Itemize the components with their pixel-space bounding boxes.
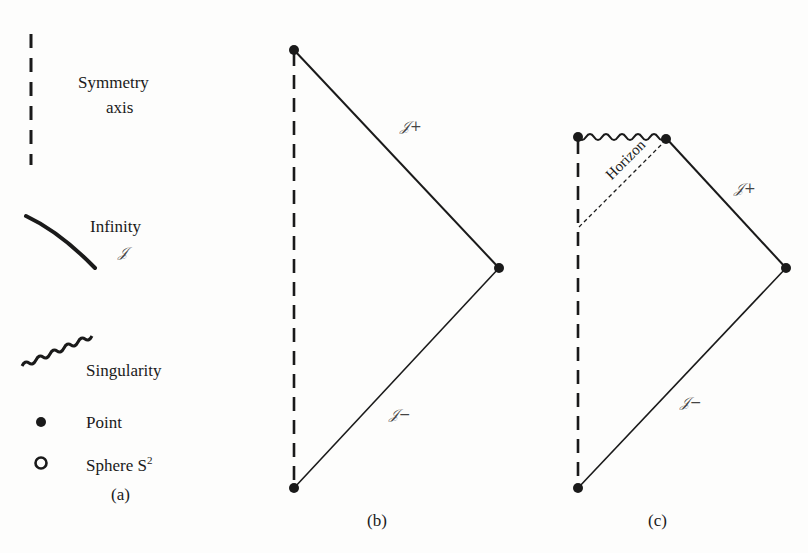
legend-infinity-curve-icon (26, 216, 95, 268)
legend-point-label: Point (86, 414, 122, 431)
legend-sphere-text: Sphere S (86, 456, 147, 475)
legend-symmetry-label: Symmetry (78, 74, 149, 91)
c-scri-plus-line (666, 138, 786, 268)
c-scri-minus-label: 𝒥− (680, 394, 702, 411)
c-right-point-icon (781, 263, 791, 273)
legend-sphere-circle-icon (36, 458, 47, 469)
b-right-point-icon (494, 263, 504, 273)
c-scri-plus-label: 𝒥+ (734, 180, 756, 197)
b-bottom-point-icon (289, 483, 299, 493)
legend-point-dot-icon (36, 417, 46, 427)
legend-singularity-wavy-icon (22, 336, 92, 366)
c-scri-minus-line (578, 268, 786, 488)
c-bottom-point-icon (573, 483, 583, 493)
c-top-right-point-icon (661, 134, 671, 144)
legend-sphere-label: Sphere S2 (86, 455, 152, 474)
c-top-left-point-icon (573, 132, 583, 142)
b-scri-plus-line (294, 50, 499, 268)
legend-sphere-sup: 2 (147, 454, 153, 466)
legend-singularity-label: Singularity (86, 362, 162, 379)
caption-b: (b) (367, 512, 387, 529)
b-scri-minus-line (294, 268, 499, 488)
legend-infinity-label: Infinity (90, 218, 141, 235)
legend-scri-symbol: 𝒥 (118, 244, 128, 261)
caption-a: (a) (111, 486, 130, 503)
c-singularity-wavy-line (578, 134, 666, 140)
caption-c: (c) (648, 512, 667, 529)
legend-axis-label: axis (106, 99, 133, 116)
b-scri-plus-label: 𝒥+ (400, 118, 422, 135)
b-top-point-icon (289, 45, 299, 55)
b-scri-minus-label: 𝒥− (389, 406, 411, 423)
